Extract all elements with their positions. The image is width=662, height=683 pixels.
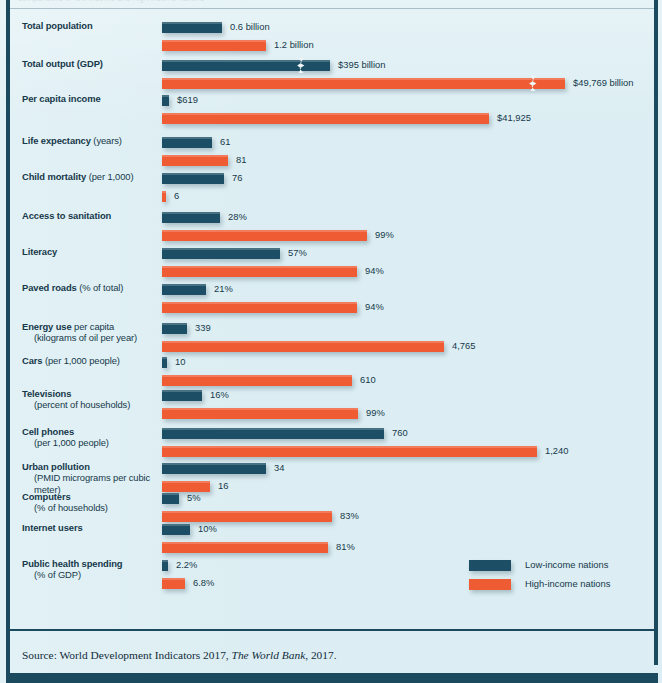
bar-value-label: 10 [175, 356, 185, 368]
bar-value-label: $49,769 billion [573, 77, 633, 89]
bar-rect [162, 446, 537, 457]
bar-rect [162, 173, 224, 184]
bar-value-label: 4,765 [452, 340, 475, 352]
category-label-qualifier: (years) [91, 135, 122, 146]
category-label-main: Energy use [22, 321, 72, 332]
category-label-main: Urban pollution [22, 461, 90, 472]
source-publication: The World Bank [232, 649, 306, 661]
category-label-main: Total output (GDP) [22, 58, 103, 69]
bar-rect [162, 511, 332, 522]
bar-rect [162, 248, 280, 259]
bar-low-income: 28% [162, 212, 220, 223]
bar-value-label: 16 [218, 480, 228, 492]
bar-high-income: 94% [162, 302, 357, 313]
axis-break-zigzag-icon [528, 76, 539, 91]
bar-rect [162, 390, 202, 401]
bar-high-income: 6 [162, 191, 166, 202]
bar-high-income: 16 [162, 481, 210, 492]
bar-rect [162, 113, 489, 124]
category-label-qualifier: (per 1,000) [86, 171, 133, 182]
bar-high-income: 1.2 billion [162, 40, 266, 51]
legend-label: Low-income nations [525, 558, 608, 572]
bar-rect [162, 323, 187, 334]
legend-label: High-income nations [525, 577, 610, 591]
bar-value-label: 10% [198, 523, 217, 535]
bar-rect [162, 191, 166, 202]
category-label: Televisions(percent of households) [22, 388, 162, 411]
figure-panel: comparisons of low-income and high-incom… [0, 0, 662, 683]
bar-high-income: 4,765 [162, 341, 444, 352]
bar-low-income: 339 [162, 323, 187, 334]
bar-low-income: 16% [162, 390, 202, 401]
legend-item: High-income nations [469, 577, 649, 596]
bar-value-label: 57% [288, 247, 307, 259]
bar-value-label: 21% [214, 283, 233, 295]
bar-rect [162, 560, 168, 571]
bar-low-income: 2.2% [162, 560, 168, 571]
bar-high-income: 1,240 [162, 446, 537, 457]
bar-value-label: 1.2 billion [274, 39, 314, 51]
category-label-sub: (percent of households) [22, 399, 162, 410]
bar-value-label: 0.6 billion [230, 21, 270, 33]
category-label-main: Total population [22, 20, 93, 31]
category-label: Per capita income [22, 93, 162, 104]
bar-rect [162, 230, 367, 241]
category-label-main: Public health spending [22, 558, 122, 569]
bar-high-income: 83% [162, 511, 332, 522]
bar-rect [162, 40, 266, 51]
bar-value-label: 6.8% [193, 577, 214, 589]
bar-value-label: 16% [210, 389, 229, 401]
category-label-main: Child mortality [22, 171, 86, 182]
category-label-main: Per capita income [22, 93, 101, 104]
source-prefix: Source: World Development Indicators 201… [22, 649, 229, 661]
category-label: Paved roads (% of total) [22, 282, 162, 293]
category-label: Literacy [22, 246, 162, 257]
bar-value-label: 339 [195, 322, 211, 334]
bar-high-income: 99% [162, 408, 358, 419]
legend-item: Low-income nations [469, 558, 649, 577]
bar-high-income: 94% [162, 266, 357, 277]
category-label-main: Paved roads [22, 282, 77, 293]
category-label: Child mortality (per 1,000) [22, 171, 162, 182]
bar-rect [162, 542, 328, 553]
bar-low-income: $395 billion [162, 60, 330, 71]
category-label: Total population [22, 20, 162, 31]
bar-high-income: $49,769 billion [162, 78, 565, 89]
bar-high-income: 81 [162, 155, 228, 166]
bar-value-label: $395 billion [338, 59, 385, 71]
legend-swatch [469, 560, 511, 571]
source-caption: Source: World Development Indicators 201… [22, 649, 337, 661]
bar-low-income: 57% [162, 248, 280, 259]
bar-value-label: $619 [177, 94, 198, 106]
bar-rect [162, 266, 357, 277]
bar-low-income: 10 [162, 357, 167, 368]
bar-rect [162, 22, 222, 33]
bar-rect [162, 463, 266, 474]
bar-value-label: 760 [392, 427, 408, 439]
bar-rect [162, 481, 210, 492]
bar-low-income: $619 [162, 95, 169, 106]
category-label-main: Cell phones [22, 426, 74, 437]
bar-rect [162, 341, 444, 352]
category-label-sub: (per 1,000 people) [22, 437, 162, 448]
category-label-main: Cars [22, 355, 42, 366]
bar-rect [162, 155, 228, 166]
bar-high-income: 81% [162, 542, 328, 553]
bar-value-label: 99% [366, 407, 385, 419]
bar-value-label: 28% [228, 211, 247, 223]
category-label-main: Access to sanitation [22, 210, 111, 221]
category-label: Total output (GDP) [22, 58, 162, 69]
category-label: Public health spending(% of GDP) [22, 558, 162, 581]
category-label: Cars (per 1,000 people) [22, 355, 162, 366]
category-label: Internet users [22, 522, 162, 533]
bar-high-income: 6.8% [162, 578, 185, 589]
bar-value-label: 76 [232, 172, 242, 184]
bar-rect [162, 78, 565, 89]
legend-swatch [469, 579, 511, 590]
bar-rect [162, 95, 169, 106]
bar-value-label: 83% [340, 510, 359, 522]
category-label-qualifier: per capita [72, 321, 115, 332]
bar-value-label: 2.2% [176, 559, 197, 571]
source-suffix: , 2017. [305, 649, 336, 661]
bar-rect [162, 578, 185, 589]
